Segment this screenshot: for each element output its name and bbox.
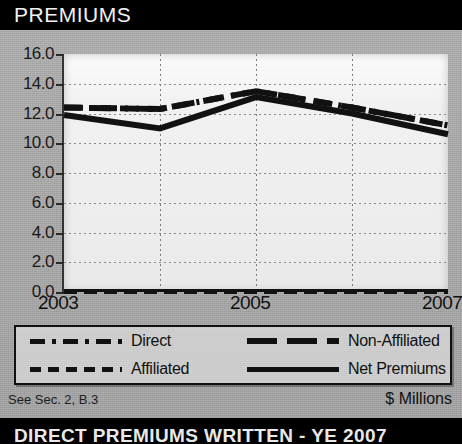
series-lines: [64, 54, 448, 292]
y-axis-tick-label: 2.0: [2, 253, 54, 270]
y-axis-tick-label: 14.0: [2, 75, 54, 92]
legend-item-direct[interactable]: Direct: [16, 327, 233, 355]
panel-header-bar: PREMIUMS: [0, 0, 462, 30]
legend-item-affiliated[interactable]: Affiliated: [16, 355, 233, 383]
x-axis-labels: 200320052007: [64, 292, 448, 322]
legend-label-net-premiums: Net Premiums: [348, 360, 446, 378]
plot-area: [64, 54, 448, 292]
panel-footer: See Sec. 2, B.3 $ Millions: [0, 390, 462, 414]
footer-reference: See Sec. 2, B.3: [8, 392, 98, 407]
chart-legend: Direct Non-Affiliated Affiliated Net Pre…: [14, 325, 452, 385]
legend-swatch-long-dash-icon: [247, 338, 339, 344]
y-axis-tick-label: 10.0: [2, 134, 54, 151]
legend-label-affiliated: Affiliated: [131, 360, 189, 378]
y-axis-tick-label: 6.0: [2, 194, 54, 211]
legend-label-non-affiliated: Non-Affiliated: [348, 332, 440, 350]
legend-item-non-affiliated[interactable]: Non-Affiliated: [233, 327, 450, 355]
x-axis-tick-label: 2005: [230, 292, 270, 314]
x-axis-tick-label: 2007: [422, 292, 462, 314]
bottom-banner-bar: DIRECT PREMIUMS WRITTEN - YE 2007: [0, 418, 462, 444]
legend-swatch-dash-dot-icon: [30, 339, 122, 344]
legend-item-net-premiums[interactable]: Net Premiums: [233, 355, 450, 383]
chart-plot-region: 16.014.012.010.08.06.04.02.00.0 20032005…: [0, 34, 462, 302]
y-axis-tick-label: 16.0: [2, 45, 54, 62]
footer-units: $ Millions: [385, 390, 452, 408]
page-title: PREMIUMS: [14, 3, 131, 27]
y-axis-labels: 16.014.012.010.08.06.04.02.00.0: [0, 34, 56, 302]
premiums-chart-panel: PREMIUMS 16.014.012.010.08.06.04.02.00.0…: [0, 0, 462, 444]
x-axis-tick-label: 2003: [38, 292, 78, 314]
legend-label-direct: Direct: [131, 332, 171, 350]
y-axis-tick-label: 8.0: [2, 164, 54, 181]
y-axis-tick-label: 4.0: [2, 224, 54, 241]
bottom-banner-title: DIRECT PREMIUMS WRITTEN - YE 2007: [14, 425, 387, 444]
legend-swatch-solid-icon: [247, 367, 339, 372]
y-axis-tick-label: 12.0: [2, 105, 54, 122]
legend-swatch-dashed-icon: [30, 367, 122, 372]
